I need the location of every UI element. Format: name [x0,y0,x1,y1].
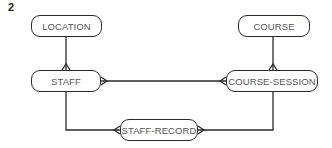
entity-location: LOCATION [31,15,102,37]
entity-staff-record: STAFF-RECORD [120,119,198,141]
rel-coursesession-staffrecord [198,92,273,130]
rel-staff-staffrecord [66,92,120,130]
entity-course: COURSE [238,15,310,37]
entity-staff: STAFF [31,70,101,92]
entity-course-session: COURSE-SESSION [226,70,318,92]
